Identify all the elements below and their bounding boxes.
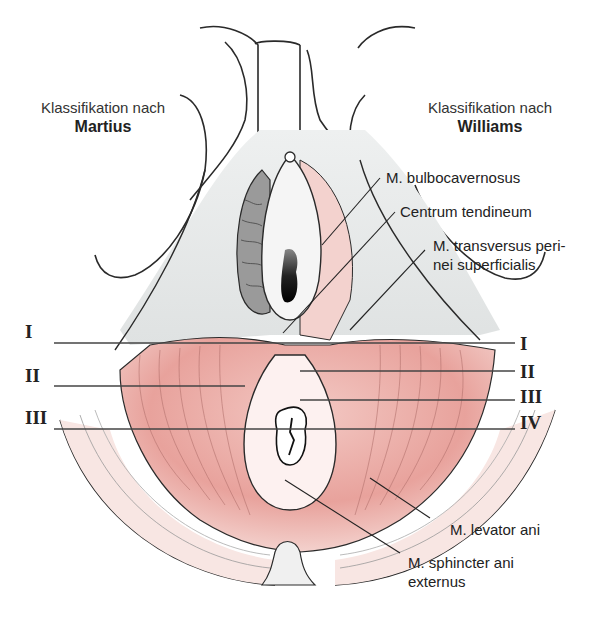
williams-grade-1: I (520, 334, 527, 354)
williams-grade-2: II (520, 362, 535, 382)
anus (276, 407, 307, 465)
clitoris (285, 152, 295, 162)
classification-martius: Klassifikation nach Martius (8, 98, 198, 136)
martius-grade-3: III (25, 408, 47, 428)
label-centrum-tendineum: Centrum tendineum (400, 202, 532, 221)
williams-grade-4: IV (520, 413, 541, 433)
williams-grade-3: III (520, 387, 542, 407)
classification-name: Williams (390, 117, 590, 136)
label-transversus-2: nei superficialis (433, 255, 536, 274)
classification-prefix: Klassifikation nach (390, 98, 590, 117)
martius-grade-1: I (25, 322, 32, 342)
label-transversus-1: M. transversus peri- (433, 236, 566, 255)
label-sphincter-1: M. sphincter ani (408, 553, 514, 572)
label-levator-ani: M. levator ani (450, 520, 540, 539)
classification-prefix: Klassifikation nach (8, 98, 198, 117)
martius-grade-2: II (25, 366, 40, 386)
label-bulbocavernosus: M. bulbocavernosus (386, 168, 520, 187)
label-sphincter-2: externus (408, 572, 466, 591)
classification-name: Martius (8, 117, 198, 136)
classification-williams: Klassifikation nach Williams (390, 98, 590, 136)
